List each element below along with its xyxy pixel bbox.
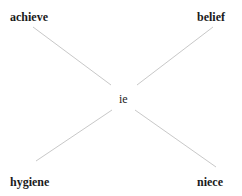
edge-achieve-ie (33, 27, 111, 85)
edge-belief-ie (137, 27, 213, 85)
node-niece: niece (197, 176, 223, 188)
node-achieve: achieve (10, 11, 48, 23)
word-web-diagram: achieve belief ie hygiene niece (0, 0, 242, 196)
edge-niece-ie (135, 110, 216, 167)
center-node-ie: ie (119, 93, 128, 105)
node-belief: belief (197, 11, 225, 23)
edge-hygiene-ie (36, 110, 112, 161)
node-hygiene: hygiene (10, 176, 49, 188)
